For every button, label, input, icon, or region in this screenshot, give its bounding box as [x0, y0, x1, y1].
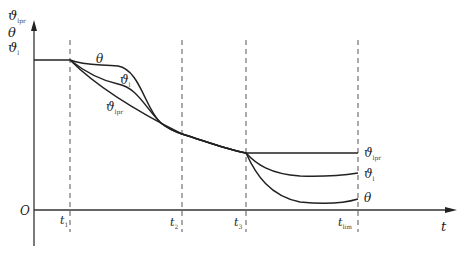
svg-text:ϑl: ϑl [8, 40, 19, 56]
curve-theta [70, 60, 358, 203]
svg-text:ϑlpr: ϑlpr [106, 100, 123, 116]
temperature-time-diagram: ϑlpr θ ϑl O t t1 t2 t3 tlim θ ϑl ϑlpr ϑl… [0, 0, 470, 258]
svg-text:ϑlpr: ϑlpr [364, 146, 381, 162]
y-label-theta: θ [8, 25, 16, 40]
origin-label: O [20, 204, 30, 218]
y-axis-arrow-icon [31, 20, 37, 31]
svg-text:t2: t2 [170, 216, 178, 230]
y-label-theta-l: ϑ [8, 40, 17, 55]
y-label-theta-lpr: ϑ [8, 8, 17, 23]
svg-text:ϑl: ϑl [120, 73, 131, 88]
x-axis-label: t [441, 219, 447, 234]
x-axis-arrow-icon [445, 207, 457, 213]
svg-text:tlim: tlim [338, 216, 352, 230]
svg-text:t1: t1 [60, 214, 68, 228]
curve-theta-l [70, 60, 358, 176]
diagram-canvas: ϑlpr θ ϑl O t t1 t2 t3 tlim θ ϑl ϑlpr ϑl… [0, 0, 470, 258]
curve-label-theta: θ [96, 52, 104, 66]
svg-text:t3: t3 [234, 216, 242, 230]
svg-text:ϑl: ϑl [364, 167, 375, 182]
svg-text:ϑlpr: ϑlpr [8, 8, 26, 25]
end-label-theta: θ [364, 191, 372, 205]
